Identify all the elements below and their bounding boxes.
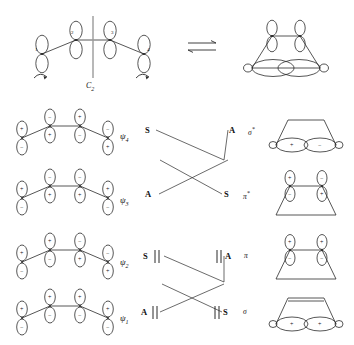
butadiene-mo-psi1 [17,289,114,335]
symmetry-label-left-psi4: S [145,126,150,135]
orbital-sign-c1-top-psi2: + [20,250,23,256]
butadiene-mo-psi3 [17,169,114,215]
top-scheme-svg [0,0,354,96]
orbital-sign-c3-top-psi4: + [78,114,81,120]
product-sign-c2-bot-pi: − [320,255,323,261]
product-sign-c2-top-pi: + [320,239,323,245]
row-psi3-svg [0,160,354,220]
symmetry-label-left-psi1: A [141,308,147,317]
orbital-sign-c4-top-psi1: + [106,306,109,312]
symmetry-label-right-psi4: A [229,126,235,135]
product-sign-c1-bot-pi-star: − [288,191,291,197]
orbital-sign-c1-top-psi3: + [20,186,23,192]
orbital-sign-c4-bot-psi4: + [106,144,109,150]
product-sign-left-sigma: + [290,321,293,327]
orbital-sign-c3-bot-psi1: − [78,312,81,318]
correlation-line-incoming-psi4 [224,130,228,160]
orbital-sign-c2-top-psi3: − [48,174,51,180]
cyclobutene-mo-sigma-star [269,120,343,152]
carbon-number-3: 3 [111,30,114,35]
psi-subscript-2: 2 [126,263,129,269]
mo-label-pi: π [244,252,248,260]
product-sign-right-sigma: + [318,321,321,327]
orbital-sign-c1-top-psi4: + [20,126,23,132]
butadiene-mo-psi2 [17,233,114,279]
orbital-sign-c1-bot-psi4: − [20,144,23,150]
mo-label-sigma-star: σ* [248,126,255,136]
orbital-sign-c1-top-psi1: + [20,306,23,312]
electron-pair-left-psi2 [152,250,162,263]
electron-pair-right-psi1 [212,306,222,319]
orbital-sign-c2-bot-psi2: − [48,256,51,262]
symmetry-label-left-psi2: S [143,252,148,261]
correlation-row-psi2: ψ2 S A π + − + − − + − + + − + − [0,224,354,284]
orbital-sign-c3-bot-psi4: − [78,132,81,138]
row-psi2-svg [0,224,354,284]
cyclobutene-skeleton-top [252,36,320,68]
psi-subscript-3: 3 [126,201,129,207]
product-sign-c1-top-pi: + [288,239,291,245]
psi-label-1: ψ1 [120,314,129,325]
conrotatory-arrow-left [34,74,47,79]
butadiene-mo-psi4 [17,109,114,155]
psi-subscript-4: 4 [126,137,129,143]
product-sign-c1-top-pi-star: + [288,175,291,181]
c2-axis-subscript: 2 [91,86,94,92]
orbital-sign-c2-bot-psi3: + [48,192,51,198]
mo-star-pi-star: * [247,190,250,196]
carbon-number-2: 2 [71,30,74,35]
orbital-sign-c2-bot-psi4: + [48,132,51,138]
orbital-sign-c3-top-psi1: + [78,294,81,300]
orbital-sign-c3-bot-psi2: + [78,256,81,262]
psi-label-2: ψ2 [120,258,129,269]
orbital-sign-c4-bot-psi2: + [106,268,109,274]
psi-label-3: ψ3 [120,196,129,207]
product-sign-left-sigma-star: + [290,142,293,148]
symmetry-label-right-psi2: A [225,252,231,261]
orbital-sign-c4-bot-psi3: − [106,204,109,210]
correlation-line-psi4 [156,130,224,160]
equilibrium-arrow-icon [188,41,216,53]
orbital-sign-c2-top-psi1: + [48,294,51,300]
correlation-row-psi4: ψ4 S A σ* + − − + + − − + + − [0,100,354,160]
carbon-number-4: 4 [147,47,150,52]
orbital-sign-c1-bot-psi2: − [20,268,23,274]
product-sign-c2-bot-pi-star: + [320,191,323,197]
orbital-sign-c2-bot-psi1: − [48,312,51,318]
orbital-sign-c3-top-psi3: − [78,174,81,180]
psi-label-4: ψ4 [120,132,129,143]
cyclobutene-mo-pi-star [276,171,336,216]
cyclobutene-mo-pi [276,235,336,280]
orbital-sign-c1-bot-psi1: − [20,324,23,330]
correlation-row-psi3: ψ3 A S π* + − − + − + + − + − − + [0,160,354,220]
correlation-diagram-figure: 1 2 3 4 C2 [0,0,354,345]
mo-star-sigma-star: * [252,126,255,132]
psi-subscript-1: 1 [126,319,129,325]
orbital-sign-c3-top-psi2: − [78,238,81,244]
row-psi1-svg [0,284,354,345]
electron-pair-left-psi1 [150,306,160,319]
mo-label-sigma: σ [243,308,247,316]
orbital-sign-c4-top-psi3: + [106,186,109,192]
symmetry-label-left-psi3: A [145,190,151,199]
electron-pair-right-psi2 [214,250,224,263]
orbital-sign-c1-bot-psi3: − [20,204,23,210]
top-reaction-scheme: 1 2 3 4 C2 [0,0,354,96]
cyclobutene-mo-sigma [269,298,343,331]
orbital-sign-c4-top-psi2: − [106,250,109,256]
mo-label-pi-star: π* [243,190,250,200]
symmetry-label-right-psi1: S [223,308,228,317]
product-sign-c2-top-pi-star: − [320,175,323,181]
symmetry-label-right-psi3: S [224,190,229,199]
orbital-sign-c4-top-psi4: − [106,126,109,132]
carbon-number-1: 1 [35,47,38,52]
conrotatory-arrow-right [136,74,149,79]
orbital-sign-c3-bot-psi3: + [78,192,81,198]
product-sign-c1-bot-pi: − [288,255,291,261]
c2-axis-label: C2 [86,82,94,92]
orbital-sign-c4-bot-psi1: − [106,324,109,330]
product-sign-right-sigma-star: − [318,142,321,148]
orbital-sign-c2-top-psi4: − [48,114,51,120]
correlation-row-psi1: ψ1 A S σ + − + − + − + − + + [0,284,354,345]
orbital-sign-c2-top-psi2: + [48,238,51,244]
